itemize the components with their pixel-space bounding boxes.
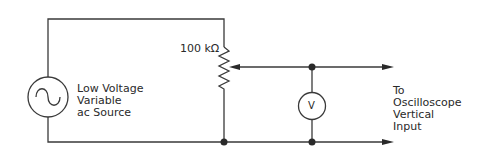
output-label-line: Input	[393, 121, 462, 133]
voltmeter-label: V	[308, 100, 315, 112]
junction-dot	[221, 139, 228, 146]
potentiometer-label: 100 kΩ	[180, 43, 219, 55]
circuit-diagram: 100 kΩ Low Voltage Variable ac Source V …	[0, 0, 480, 159]
junction-dot	[309, 139, 316, 146]
source-label-line: ac Source	[77, 107, 143, 119]
output-bottom-arrow-icon	[382, 139, 394, 145]
circuit-wiring	[0, 0, 480, 159]
junction-dot	[309, 64, 316, 71]
source-label: Low Voltage Variable ac Source	[77, 83, 143, 119]
output-top-arrow-icon	[382, 64, 394, 70]
sine-wave-icon	[36, 89, 60, 106]
bottom-wire	[48, 117, 384, 142]
output-label: To Oscilloscope Vertical Input	[393, 85, 462, 133]
wiper-arrowhead-icon	[229, 64, 240, 70]
potentiometer-resistor-icon	[219, 47, 229, 142]
